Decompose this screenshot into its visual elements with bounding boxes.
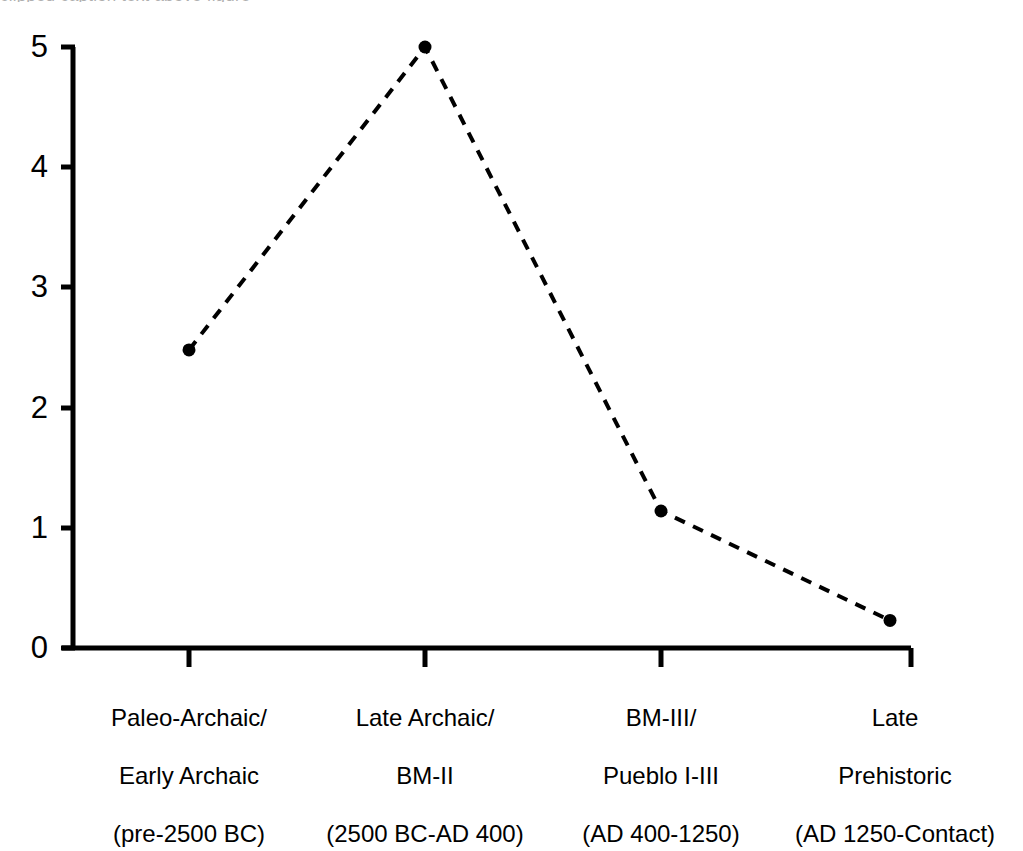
x-tick-label-line-2: Pueblo I-III [551,761,771,790]
data-series-line [189,47,890,620]
x-tick-label-line-2: Prehistoric [771,761,1019,790]
x-tick-label-paleo-archaic: Paleo-Archaic/ Early Archaic (pre-2500 B… [69,674,309,851]
x-tick-label-line-1: Late Archaic/ [303,703,547,732]
x-axis-ticks [189,648,911,667]
y-tick-label-2: 2 [2,392,48,423]
data-point-1 [183,343,196,356]
y-tick-label-3: 3 [2,271,48,302]
y-tick-label-4: 4 [2,151,48,182]
data-point-markers [183,41,897,627]
y-tick-label-0: 0 [2,632,48,663]
x-tick-label-line-1: Paleo-Archaic/ [69,703,309,732]
y-tick-label-1: 1 [2,512,48,543]
data-point-3 [655,505,668,518]
data-point-4 [884,614,897,627]
x-tick-label-bm-iii-pueblo: BM-III/ Pueblo I-III (AD 400-1250) [551,674,771,851]
x-tick-label-line-3: (2500 BC-AD 400) [303,819,547,848]
x-tick-label-line-3: (AD 400-1250) [551,819,771,848]
x-tick-label-late-archaic: Late Archaic/ BM-II (2500 BC-AD 400) [303,674,547,851]
x-tick-label-line-2: BM-II [303,761,547,790]
x-tick-label-late-prehistoric: Late Prehistoric (AD 1250-Contact) [771,674,1019,851]
x-tick-label-line-1: Late [771,703,1019,732]
x-tick-label-line-3: (pre-2500 BC) [69,819,309,848]
x-tick-label-line-3: (AD 1250-Contact) [771,819,1019,848]
y-tick-label-5: 5 [2,31,48,62]
x-tick-label-line-1: BM-III/ [551,703,771,732]
x-tick-label-line-2: Early Archaic [69,761,309,790]
data-point-2 [419,41,432,54]
